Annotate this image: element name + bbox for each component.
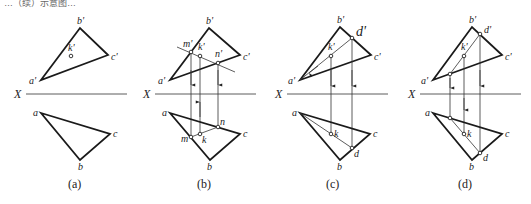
label-d-prime: d' [484, 24, 492, 35]
label-a-prime: a' [421, 75, 429, 86]
label-c: c [243, 128, 248, 139]
caption-d: (d) [458, 177, 472, 191]
caption-b: (b) [197, 177, 211, 191]
label-m: m [181, 133, 188, 144]
label-k: k [467, 128, 472, 139]
caption-c: (c) [326, 177, 339, 191]
label-n: n [220, 116, 225, 127]
label-a-prime: a' [288, 75, 296, 86]
point-d [478, 151, 482, 155]
label-b: b [469, 161, 474, 172]
label-a: a [33, 107, 38, 118]
front-view-triangle [41, 28, 108, 80]
panel-c: X b' d' c' a' k' a c b k d (c) [274, 14, 388, 191]
point-k-prime [69, 54, 73, 58]
label-d-prime: d' [356, 24, 367, 39]
label-c-prime: c' [111, 51, 118, 62]
label-c: c [373, 128, 378, 139]
x-axis-label: X [407, 87, 416, 101]
label-a-prime: a' [29, 75, 37, 86]
label-a: a [162, 107, 167, 118]
label-a: a [292, 107, 297, 118]
label-b: b [337, 161, 342, 172]
top-view-triangle [41, 113, 110, 160]
point-k-prime [462, 54, 466, 58]
label-c-prime: c' [374, 51, 381, 62]
label-k-prime: k' [68, 42, 75, 53]
point-d-prime [478, 32, 482, 36]
label-k: k [202, 134, 207, 145]
front-view-triangle [170, 28, 240, 80]
label-k-prime: k' [461, 41, 468, 52]
front-view-triangle [433, 27, 502, 80]
panel-a: X b' c' a' k' a c b (a) [13, 15, 127, 191]
point-k-prime [329, 54, 333, 58]
point-m [189, 135, 193, 139]
label-c-prime: c' [243, 51, 250, 62]
label-b-prime: b' [77, 15, 85, 26]
panel-d: X b' d' c' a' k' a c b k d (d) [407, 14, 521, 191]
label-a: a [425, 107, 430, 118]
point-m-prime [189, 50, 193, 54]
projection-diagram: …（续）示意图… X b' c' a' k' a c b (a) X b' c' [0, 0, 531, 204]
point-e [448, 116, 452, 120]
label-m-prime: m' [183, 38, 193, 49]
point-k-prime [198, 54, 202, 58]
label-c-prime: c' [505, 51, 512, 62]
x-axis-label: X [13, 87, 22, 101]
label-a-prime: a' [158, 75, 166, 86]
label-d: d [483, 152, 489, 163]
label-k-prime: k' [328, 41, 335, 52]
label-d: d [354, 148, 360, 159]
label-b-prime: b' [206, 15, 214, 26]
label-k-prime: k' [198, 41, 205, 52]
label-b-prime: b' [469, 14, 477, 25]
label-b-prime: b' [337, 14, 345, 25]
cropped-header-text: …（续）示意图… [4, 0, 76, 8]
point-k [462, 132, 466, 136]
label-k: k [334, 128, 339, 139]
label-b: b [78, 161, 83, 172]
panel-b: X b' c' a' m' k' n' a c b m k n (b) [142, 15, 256, 191]
label-c: c [113, 128, 118, 139]
x-axis-label: X [274, 87, 283, 101]
point-e-prime [448, 72, 452, 76]
caption-a: (a) [68, 177, 81, 191]
point-k [329, 132, 333, 136]
label-b: b [207, 161, 212, 172]
point-d-prime [350, 36, 354, 40]
label-c: c [505, 128, 510, 139]
x-axis-label: X [142, 87, 151, 101]
point-n-prime [216, 61, 220, 65]
label-n-prime: n' [215, 48, 223, 59]
